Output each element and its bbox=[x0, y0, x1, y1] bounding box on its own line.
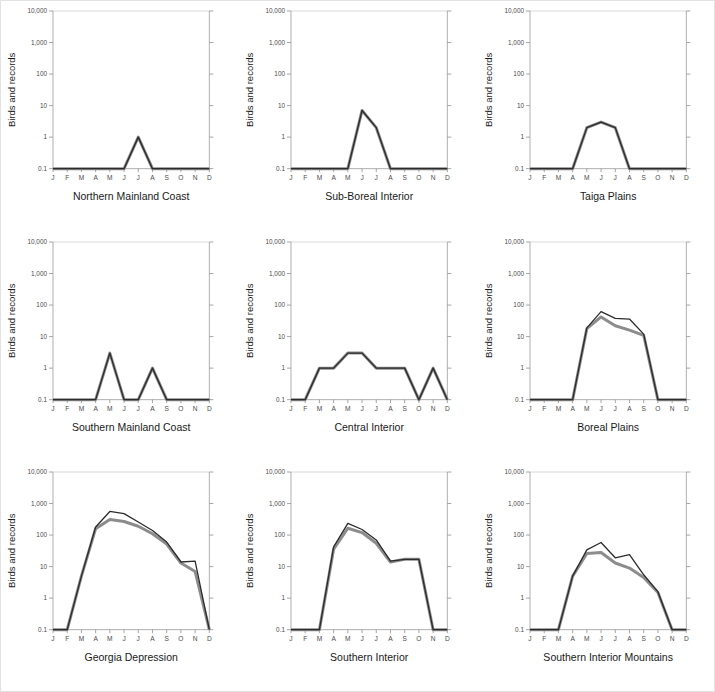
series-line-records bbox=[530, 543, 686, 630]
y-tick-label: 1,000 bbox=[269, 500, 285, 507]
y-tick-label: 1,000 bbox=[269, 269, 285, 276]
x-tick-label: N bbox=[193, 405, 198, 412]
y-axis-label: Birds and records bbox=[244, 514, 255, 589]
x-tick-label: J bbox=[290, 635, 293, 642]
x-tick-label: N bbox=[431, 405, 436, 412]
x-tick-label: O bbox=[178, 174, 183, 181]
y-tick-label: 1 bbox=[43, 133, 47, 140]
x-tick-label: J bbox=[375, 635, 378, 642]
x-tick-label: M bbox=[317, 174, 322, 181]
x-tick-label: O bbox=[655, 635, 660, 642]
series-line-birds bbox=[530, 553, 686, 630]
x-tick-label: D bbox=[684, 635, 689, 642]
y-tick-label: 10 bbox=[278, 102, 286, 109]
x-tick-label: J bbox=[122, 635, 125, 642]
x-tick-label: F bbox=[65, 635, 69, 642]
x-tick-label: A bbox=[150, 405, 155, 412]
x-tick-label: S bbox=[164, 635, 169, 642]
chart-panel: 10,0001,0001001010.1JFMAMJJASONDBirds an… bbox=[478, 232, 715, 463]
x-tick-label: A bbox=[570, 635, 575, 642]
x-tick-label: D bbox=[684, 174, 689, 181]
x-tick-label: A bbox=[332, 405, 337, 412]
x-tick-label: D bbox=[207, 174, 212, 181]
y-tick-label: 1,000 bbox=[508, 500, 524, 507]
chart-panel: 10,0001,0001001010.1JFMAMJJASONDBirds an… bbox=[239, 462, 477, 692]
x-tick-label: M bbox=[317, 405, 322, 412]
y-tick-label: 1,000 bbox=[508, 39, 524, 46]
series-line-records bbox=[291, 110, 447, 168]
y-tick-label: 10 bbox=[517, 333, 525, 340]
x-tick-label: M bbox=[555, 405, 560, 412]
x-tick-label: J bbox=[599, 635, 602, 642]
x-tick-label: A bbox=[389, 635, 394, 642]
y-axis-label: Birds and records bbox=[244, 283, 255, 358]
y-tick-label: 10,000 bbox=[266, 469, 286, 476]
x-tick-label: A bbox=[389, 174, 394, 181]
y-tick-label: 1 bbox=[520, 595, 524, 602]
x-tick-label: N bbox=[193, 635, 198, 642]
x-tick-label: S bbox=[164, 174, 169, 181]
chart-panel: 10,0001,0001001010.1JFMAMJJASONDBirds an… bbox=[478, 1, 715, 232]
x-tick-label: M bbox=[584, 405, 589, 412]
y-tick-label: 1 bbox=[520, 364, 524, 371]
x-tick-label: S bbox=[403, 405, 408, 412]
x-tick-label: O bbox=[178, 405, 183, 412]
y-tick-label: 100 bbox=[36, 301, 47, 308]
y-tick-label: 1 bbox=[43, 595, 47, 602]
x-tick-label: M bbox=[317, 635, 322, 642]
y-tick-label: 10,000 bbox=[27, 238, 47, 245]
y-tick-label: 0.1 bbox=[38, 626, 47, 633]
x-tick-label: F bbox=[65, 405, 69, 412]
x-tick-label: J bbox=[613, 174, 616, 181]
x-tick-label: M bbox=[345, 635, 350, 642]
x-tick-label: A bbox=[150, 635, 155, 642]
panel-title: Southern Mainland Coast bbox=[72, 420, 191, 432]
x-tick-label: A bbox=[332, 635, 337, 642]
x-tick-label: N bbox=[669, 635, 674, 642]
y-tick-label: 100 bbox=[275, 532, 286, 539]
x-tick-label: M bbox=[107, 405, 112, 412]
y-tick-label: 0.1 bbox=[515, 626, 524, 633]
x-tick-label: J bbox=[122, 174, 125, 181]
x-tick-label: J bbox=[137, 635, 140, 642]
y-tick-label: 10 bbox=[40, 102, 48, 109]
x-tick-label: F bbox=[542, 174, 546, 181]
x-tick-label: F bbox=[304, 174, 308, 181]
y-tick-label: 100 bbox=[36, 70, 47, 77]
x-tick-label: J bbox=[528, 174, 531, 181]
x-tick-label: D bbox=[445, 174, 450, 181]
x-tick-label: J bbox=[613, 405, 616, 412]
x-tick-label: J bbox=[599, 405, 602, 412]
x-tick-label: O bbox=[655, 174, 660, 181]
x-tick-label: A bbox=[627, 405, 632, 412]
y-tick-label: 0.1 bbox=[515, 396, 524, 403]
y-axis-label: Birds and records bbox=[6, 283, 17, 358]
x-tick-label: O bbox=[417, 405, 422, 412]
x-tick-label: A bbox=[627, 174, 632, 181]
x-tick-label: D bbox=[684, 405, 689, 412]
x-tick-label: S bbox=[403, 174, 408, 181]
x-tick-label: M bbox=[345, 174, 350, 181]
y-tick-label: 1,000 bbox=[31, 500, 47, 507]
chart-panel: 10,0001,0001001010.1JFMAMJJASONDBirds an… bbox=[239, 232, 477, 463]
y-tick-label: 10 bbox=[517, 563, 525, 570]
y-tick-label: 0.1 bbox=[276, 396, 285, 403]
series-line-birds bbox=[53, 353, 209, 400]
x-tick-label: J bbox=[51, 405, 54, 412]
y-tick-label: 1,000 bbox=[508, 269, 524, 276]
x-tick-label: J bbox=[290, 405, 293, 412]
y-axis-label: Birds and records bbox=[6, 514, 17, 589]
y-tick-label: 0.1 bbox=[38, 396, 47, 403]
y-tick-label: 1 bbox=[43, 364, 47, 371]
x-tick-label: M bbox=[345, 405, 350, 412]
x-tick-label: A bbox=[627, 635, 632, 642]
x-tick-label: N bbox=[669, 174, 674, 181]
y-tick-label: 100 bbox=[513, 70, 524, 77]
y-tick-label: 10 bbox=[517, 102, 525, 109]
panel-title: Southern Interior Mountains bbox=[543, 651, 673, 663]
y-tick-label: 10 bbox=[278, 563, 286, 570]
x-tick-label: O bbox=[178, 635, 183, 642]
x-tick-label: M bbox=[107, 635, 112, 642]
chart-panel: 10,0001,0001001010.1JFMAMJJASONDBirds an… bbox=[1, 1, 239, 232]
y-axis-label: Birds and records bbox=[483, 52, 494, 127]
